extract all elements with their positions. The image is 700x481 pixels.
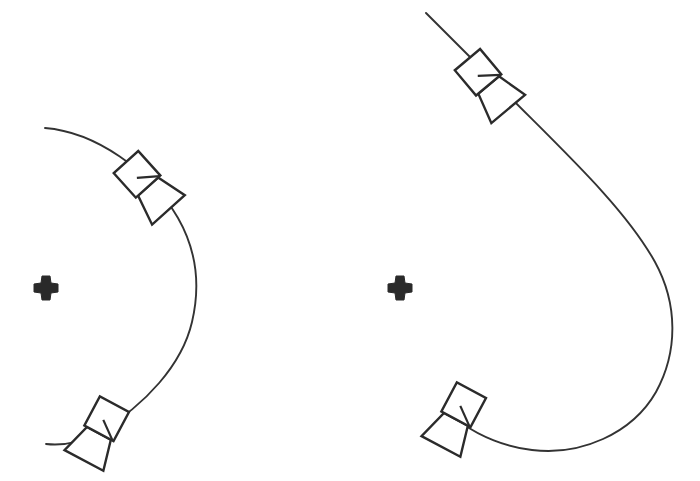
figure-canvas	[0, 0, 700, 481]
figure-root: Spacecraft trajectory diagram Two side-b…	[0, 0, 700, 481]
